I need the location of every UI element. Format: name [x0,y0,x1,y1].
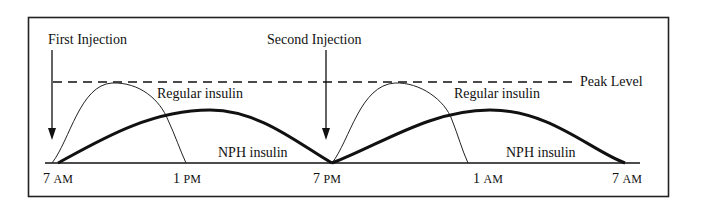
second-injection-arrow-icon [322,50,330,140]
nph-insulin-curve-2 [332,110,625,163]
first-injection-label: First Injection [48,33,127,47]
insulin-diagram [0,0,701,205]
nph-insulin-label-2: NPH insulin [506,146,576,160]
second-injection-label: Second Injection [267,33,361,47]
first-injection-arrow-icon [48,50,56,140]
tick-7am-next: 7 AM [612,172,642,186]
regular-insulin-label-2: Regular insulin [454,87,540,101]
tick-7pm: 7 PM [313,172,341,186]
regular-insulin-label-1: Regular insulin [157,87,243,101]
tick-1pm: 1 PM [173,172,201,186]
nph-insulin-curve-1 [58,110,332,163]
peak-level-label: Peak Level [580,75,643,89]
tick-7am: 7 AM [43,172,73,186]
regular-insulin-curve-2 [332,83,468,163]
tick-1am: 1 AM [473,172,503,186]
nph-insulin-label-1: NPH insulin [218,146,288,160]
